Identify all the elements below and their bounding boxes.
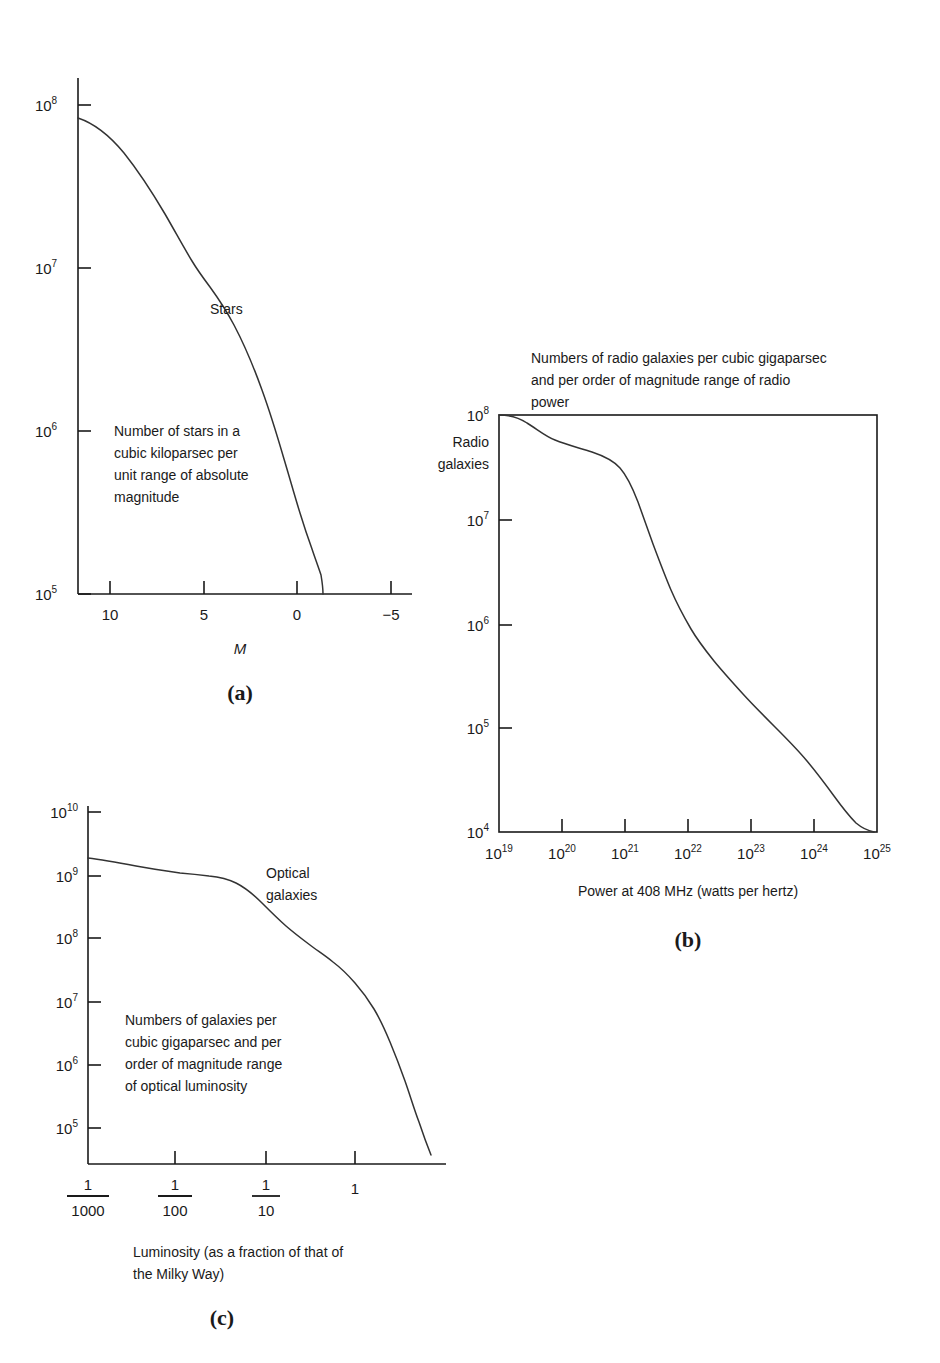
panel-c-x-tick-numerator-0: 1 [84, 1176, 92, 1193]
panel-b-x-tick-label-2: 1021 [611, 843, 639, 862]
figure-canvas: 108 107 106 105 10 5 0 −5 M [0, 0, 940, 1363]
panel-b-y-tick-label-1: 107 [467, 510, 490, 529]
panel-a-x-tick-label-3: −5 [382, 606, 399, 623]
panel-c-x-tick-denominator-2: 10 [258, 1202, 275, 1219]
panel-a-y-tick-label-1: 107 [35, 258, 58, 277]
panel-b-y-tick-label-4: 104 [467, 822, 490, 841]
panel-a-curve-label-stars: Stars [210, 301, 243, 317]
panel-a-y-tick-label-3: 105 [35, 584, 58, 603]
panel-c-x-tick-label-3: 1 [351, 1180, 359, 1197]
panel-b-x-tick-label-0: 1019 [485, 843, 513, 862]
astronomy-luminosity-functions-figure: 108 107 106 105 10 5 0 −5 M [0, 0, 940, 1363]
panel-b-title-line-0: Numbers of radio galaxies per cubic giga… [531, 350, 827, 366]
panel-a-description-line-1: cubic kiloparsec per [114, 445, 238, 461]
panel-a-description-line-2: unit range of absolute [114, 467, 249, 483]
panel-a: 108 107 106 105 10 5 0 −5 M [35, 78, 412, 705]
panel-b-title-line-1: and per order of magnitude range of radi… [531, 372, 790, 388]
panel-b-y-axis-label-line-0: Radio [452, 434, 489, 450]
panel-a-x-axis-title: M [234, 640, 247, 657]
panel-c-y-tick-label-2: 108 [56, 928, 79, 947]
panel-c-x-tick-numerator-2: 1 [262, 1176, 270, 1193]
panel-c-curve-label-line-0: Optical [266, 865, 310, 881]
panel-b-x-tick-label-4: 1023 [737, 843, 765, 862]
panel-c-x-tick-denominator-0: 1000 [71, 1202, 104, 1219]
panel-b-y-tick-label-2: 106 [467, 615, 490, 634]
panel-b: 108 107 106 105 104 1019 [438, 350, 892, 952]
panel-c: 1010 109 108 107 106 105 1 [50, 802, 446, 1330]
panel-b-x-tick-label-3: 1022 [674, 843, 702, 862]
panel-c-y-tick-label-5: 105 [56, 1118, 79, 1137]
panel-b-title-line-2: power [531, 394, 569, 410]
panel-a-description-line-3: magnitude [114, 489, 180, 505]
panel-a-x-tick-label-0: 10 [102, 606, 119, 623]
panel-c-y-tick-label-1: 109 [56, 866, 79, 885]
panel-b-y-tick-label-3: 105 [467, 718, 490, 737]
panel-a-y-tick-label-2: 106 [35, 421, 58, 440]
panel-c-x-tick-label-1: 1 100 [158, 1176, 192, 1219]
panel-a-description-line-0: Number of stars in a [114, 423, 240, 439]
panel-b-y-tick-label-0: 108 [467, 405, 490, 424]
panel-c-description-line-3: of optical luminosity [125, 1078, 247, 1094]
panel-c-x-tick-numerator-1: 1 [171, 1176, 179, 1193]
panel-a-x-tick-label-1: 5 [200, 606, 208, 623]
panel-c-description-line-0: Numbers of galaxies per [125, 1012, 277, 1028]
panel-c-x-tick-numerator-3: 1 [351, 1180, 359, 1197]
panel-b-caption: (b) [675, 927, 702, 952]
panel-c-caption: (c) [210, 1305, 234, 1330]
panel-a-y-tick-label-0: 108 [35, 95, 58, 114]
panel-c-y-tick-label-0: 1010 [50, 802, 78, 821]
panel-b-x-axis-title: Power at 408 MHz (watts per hertz) [578, 883, 798, 899]
panel-a-caption: (a) [227, 680, 253, 705]
panel-a-stars-curve [78, 118, 323, 594]
panel-b-radio-galaxies-curve [499, 415, 874, 832]
panel-b-x-tick-label-1: 1020 [548, 843, 576, 862]
panel-a-x-tick-label-2: 0 [293, 606, 301, 623]
panel-c-x-tick-label-0: 1 1000 [67, 1176, 109, 1219]
panel-c-description-line-2: order of magnitude range [125, 1056, 282, 1072]
panel-c-x-axis-title-line-1: the Milky Way) [133, 1266, 224, 1282]
panel-c-y-tick-label-3: 107 [56, 992, 79, 1011]
panel-c-x-tick-denominator-1: 100 [162, 1202, 187, 1219]
panel-c-x-axis-title-line-0: Luminosity (as a fraction of that of [133, 1244, 343, 1260]
panel-b-y-axis-label-line-1: galaxies [438, 456, 489, 472]
panel-c-x-tick-label-2: 1 10 [252, 1176, 280, 1219]
panel-b-x-tick-label-6: 1025 [863, 843, 891, 862]
panel-c-description-line-1: cubic gigaparsec and per [125, 1034, 282, 1050]
panel-c-curve-label-line-1: galaxies [266, 887, 317, 903]
panel-c-optical-galaxies-curve [88, 858, 431, 1155]
panel-c-y-tick-label-4: 106 [56, 1055, 79, 1074]
panel-b-x-tick-label-5: 1024 [800, 843, 828, 862]
